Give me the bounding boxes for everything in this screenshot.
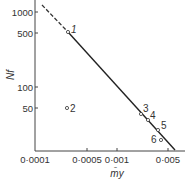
point-label: 3 xyxy=(143,103,149,114)
data-point xyxy=(65,106,68,109)
y-tick-label: 1000 xyxy=(12,7,33,18)
data-point xyxy=(66,30,69,33)
point-label: 4 xyxy=(150,110,156,121)
x-tick-label: 0·0001 xyxy=(20,154,50,165)
y-tick-label: 50 xyxy=(22,103,33,114)
data-point xyxy=(159,138,162,141)
y-tick-label: 500 xyxy=(17,28,33,39)
x-tick-label: 0·0005 xyxy=(72,154,102,165)
point-label: 5 xyxy=(161,120,167,131)
x-axis-label: m̄y xyxy=(110,167,124,179)
point-label: 6 xyxy=(151,134,157,145)
x-tick-label: 0·005 xyxy=(156,154,180,165)
y-tick-label: 100 xyxy=(17,82,33,93)
x-tick-label: 0·001 xyxy=(105,154,129,165)
fit-line-dashed xyxy=(42,5,68,32)
chart: 1000 500 100 50 0·0001 0·0005 0·001 0·00… xyxy=(0,0,185,182)
fit-line xyxy=(68,32,175,150)
data-point xyxy=(156,128,159,131)
point-label: 2 xyxy=(70,103,76,114)
y-axis-label: Nf xyxy=(5,69,16,80)
point-label: 1 xyxy=(71,24,77,35)
y-ticks: 1000 500 100 50 xyxy=(12,7,38,114)
